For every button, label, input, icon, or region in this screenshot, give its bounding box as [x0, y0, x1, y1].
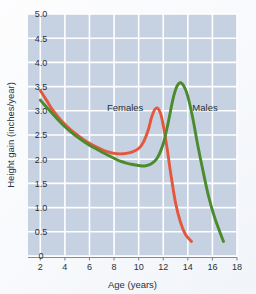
y-tick-label: 5.0 [35, 9, 48, 19]
chart-figure: 00.51.01.52.02.53.03.54.04.55.0 24681012… [0, 0, 256, 294]
x-tick-label: 14 [183, 262, 193, 272]
series-annotation-females: Females [107, 102, 144, 113]
x-tick-label: 4 [62, 262, 67, 272]
y-tick-label: 1.0 [35, 203, 48, 213]
y-axis-title: Height gain (inches/year) [5, 82, 16, 188]
x-tick-label: 6 [87, 262, 92, 272]
x-tick-label: 12 [158, 262, 168, 272]
x-tick-label: 16 [207, 262, 217, 272]
y-tick-label: 0 [38, 251, 43, 261]
x-tick-label: 8 [112, 262, 117, 272]
y-tick-label: 2.0 [35, 155, 48, 165]
y-tick-label: 2.5 [35, 130, 48, 140]
y-tick-label: 4.0 [35, 58, 48, 68]
y-tick-label: 0.5 [35, 227, 48, 237]
series-annotation-males: Males [192, 102, 218, 113]
x-axis-tick-labels: 24681012141618 [38, 262, 242, 272]
x-tick-label: 10 [134, 262, 144, 272]
y-tick-label: 4.5 [35, 34, 48, 44]
x-axis-title: Age (years) [108, 279, 157, 290]
y-tick-label: 1.5 [35, 179, 48, 189]
chart-svg: 00.51.01.52.02.53.03.54.04.55.0 24681012… [0, 0, 256, 294]
x-tick-label: 18 [232, 262, 242, 272]
x-tick-label: 2 [38, 262, 43, 272]
